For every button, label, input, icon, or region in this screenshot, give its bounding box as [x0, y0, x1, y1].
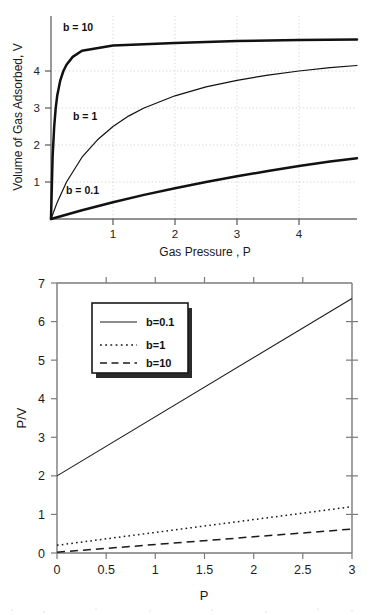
lower-xtick-label-2: 2	[250, 563, 257, 577]
upper-ytick-label-1: 1	[34, 176, 40, 188]
upper-chart-langmuir-isotherm: 1 2 3 4 1 2 3 4 Gas Pressure , P Volume …	[0, 0, 375, 260]
lower-ytick-label-1: 1	[38, 508, 45, 522]
lower-chart-x-axis-title: P	[200, 588, 209, 603]
upper-chart-annotation-b10: b = 10	[63, 21, 93, 33]
lower-ytick-label-6: 6	[38, 315, 45, 329]
lower-chart-y-axis-title: P/V	[14, 407, 29, 428]
lower-ytick-label-3: 3	[38, 431, 45, 445]
figure-container: 1 2 3 4 1 2 3 4 Gas Pressure , P Volume …	[0, 0, 375, 615]
lower-ytick-label-5: 5	[38, 354, 45, 368]
upper-ytick-label-4: 4	[34, 65, 41, 77]
lower-chart-legend[interactable]: b=0.1 b=1 b=10	[92, 303, 192, 378]
lower-xtick-label-1-5: 1.5	[196, 563, 213, 577]
upper-ytick-label-2: 2	[34, 139, 40, 151]
lower-line-b-1	[57, 507, 352, 546]
upper-chart-x-axis-title: Gas Pressure , P	[159, 245, 250, 259]
lower-xtick-label-3: 3	[349, 563, 356, 577]
legend-label-b-0-1: b=0.1	[146, 316, 174, 328]
lower-xtick-label-2-5: 2.5	[294, 563, 311, 577]
legend-label-b-10: b=10	[146, 357, 171, 369]
upper-xtick-label-1: 1	[110, 228, 116, 240]
upper-chart-annotation-b1: b = 1	[73, 110, 97, 122]
upper-chart-y-axis-title: Volume of Gas Adsorbed, V	[11, 43, 25, 190]
lower-xtick-label-1: 1	[152, 563, 159, 577]
upper-chart-annotation-b01: b = 0.1	[66, 184, 99, 196]
lower-xtick-label-0-5: 0.5	[98, 563, 115, 577]
lower-ytick-label-2: 2	[38, 469, 45, 483]
lower-ytick-label-4: 4	[38, 392, 45, 406]
upper-chart-x-ticks	[113, 219, 299, 225]
lower-line-b-10	[57, 529, 352, 552]
lower-ytick-label-0: 0	[38, 547, 45, 561]
scan-artifact-band	[0, 605, 375, 615]
lower-chart-langmuir-linearized: 0 1 2 3 4 5 6 7 0 0.5 1 1.5 2 2.5 3 P P/…	[0, 260, 375, 615]
upper-xtick-label-3: 3	[234, 228, 240, 240]
upper-xtick-label-4: 4	[296, 228, 303, 240]
lower-xtick-label-0: 0	[54, 563, 61, 577]
upper-xtick-label-2: 2	[172, 228, 178, 240]
upper-chart-y-ticks	[45, 71, 51, 182]
lower-ytick-label-7: 7	[38, 277, 45, 291]
upper-ytick-label-3: 3	[34, 102, 40, 114]
legend-label-b-1: b=1	[146, 339, 165, 351]
